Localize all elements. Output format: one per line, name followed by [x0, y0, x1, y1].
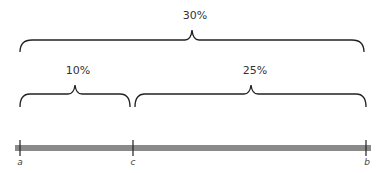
point-label-b: b	[364, 157, 370, 167]
brace-label-total: 30%	[183, 9, 207, 22]
number-line-bar	[15, 145, 371, 151]
brace-left	[20, 85, 130, 107]
brace-label-right: 25%	[243, 64, 267, 77]
brace-total	[20, 30, 364, 52]
diagram-canvas	[0, 0, 383, 173]
point-label-c: c	[131, 157, 136, 167]
brace-label-left: 10%	[66, 64, 90, 77]
brace-right	[135, 85, 366, 107]
point-label-a: a	[17, 157, 23, 167]
